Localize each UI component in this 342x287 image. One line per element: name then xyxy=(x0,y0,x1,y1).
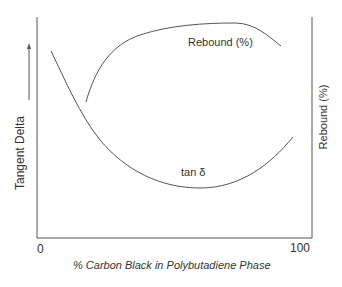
up-arrow-icon xyxy=(27,43,31,100)
rebound-curve-label: Rebound (%) xyxy=(188,37,253,48)
left-axis-label: Tangent Delta xyxy=(14,116,26,190)
x-axis-label: % Carbon Black in Polybutadiene Phase xyxy=(73,260,271,271)
right-axis-label: Rebound (%) xyxy=(318,85,329,150)
rebound-curve xyxy=(86,23,281,102)
x-tick-0: 0 xyxy=(37,243,44,255)
tan-delta-curve xyxy=(51,51,293,188)
tan-delta-curve-label: tan δ xyxy=(181,167,205,178)
x-tick-100: 100 xyxy=(290,242,310,254)
